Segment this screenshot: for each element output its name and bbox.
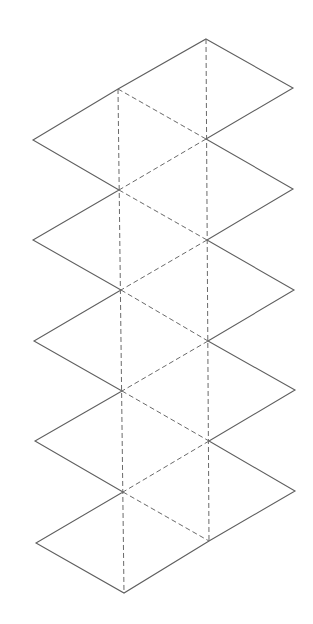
net-svg [0, 0, 313, 624]
fold-line-diagonal [121, 240, 207, 290]
fold-line-diagonal [121, 290, 208, 341]
fold-line-diagonal [118, 89, 206, 139]
fold-line-diagonal [122, 391, 209, 441]
fold-line-diagonal [123, 492, 209, 541]
fold-line-left-vertical [118, 89, 124, 593]
fold-line-diagonal [119, 190, 207, 240]
icosahedron-net-diagram: Icosahedron net [0, 0, 313, 624]
fold-line-right-vertical [206, 39, 209, 541]
fold-line-diagonal [122, 341, 208, 391]
fold-line-diagonal [123, 441, 209, 492]
fold-lines [118, 39, 209, 593]
net-outline-cut-line [33, 39, 295, 593]
fold-line-diagonal [119, 139, 206, 190]
